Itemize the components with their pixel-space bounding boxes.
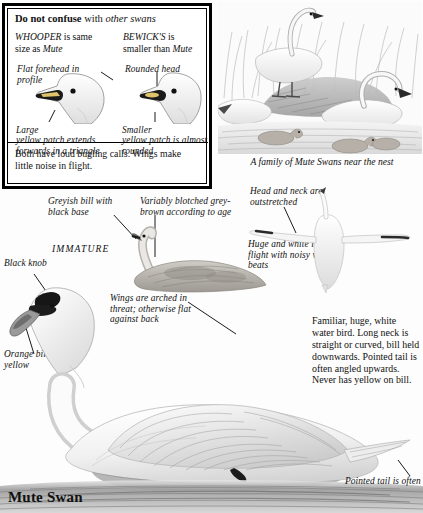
nest-scene-illustration xyxy=(218,2,422,154)
field-guide-page: Do not confuse with other swans WHOOPER … xyxy=(0,0,423,513)
whooper-head-illustration xyxy=(33,68,119,124)
nest-scene-caption: A family of Mute Swans near the nest xyxy=(222,156,422,167)
compare-box-footer-note: Both have loud bugling calls. Wings make… xyxy=(15,148,201,172)
immature-bill-label: Greyish bill with black base xyxy=(48,196,132,217)
compare-box-divider xyxy=(8,142,208,143)
flying-swan-illustration xyxy=(232,185,423,293)
page-title: Mute Swan xyxy=(8,489,83,506)
bewicks-head-illustration xyxy=(138,68,214,124)
immature-plumage-label: Variably blotched grey-brown according t… xyxy=(140,196,232,217)
do-not-confuse-box: Do not confuse with other swans WHOOPER … xyxy=(4,5,210,187)
pointed-tail-label: Pointed tail is often xyxy=(345,476,423,487)
